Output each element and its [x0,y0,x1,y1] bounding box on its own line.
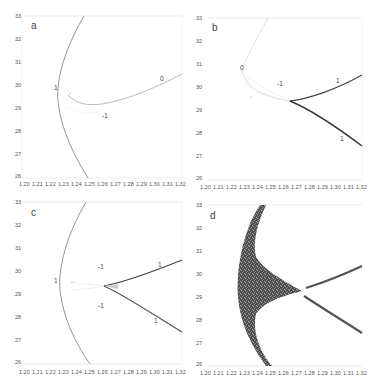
y-tick: 33 [15,199,21,205]
panel-b: 33 32 31 30 29 28 27 26 1.20 1.21 1.22 1… [190,0,380,192]
svg-text:1.21: 1.21 [32,369,43,375]
svg-text:1.22: 1.22 [226,370,237,376]
svg-text:1.30: 1.30 [330,370,341,376]
lower-band [304,296,362,333]
plot-area: 33 32 31 30 29 28 27 26 1.20 1.21 1.22 1… [0,192,190,384]
plot-area: 33 32 31 30 29 28 27 26 1.20 1.21 1.22 1… [190,192,380,384]
svg-text:1.29: 1.29 [317,370,328,376]
y-tick: 31 [196,61,202,67]
panel-label: a [31,20,37,31]
lower-branch-curve [104,286,182,332]
svg-text:1.26: 1.26 [97,181,108,187]
svg-text:1.25: 1.25 [265,370,276,376]
svg-text:1.23: 1.23 [58,369,69,375]
panel-label: c [31,207,36,218]
y-tick: 30 [196,84,202,90]
svg-text:1.30: 1.30 [149,369,160,375]
svg-text:1.27: 1.27 [291,184,302,190]
svg-text:1.30: 1.30 [149,181,160,187]
svg-text:1.22: 1.22 [45,181,56,187]
annotation: 1 [54,277,58,284]
annotation: 1 [154,317,158,324]
annotation: 1 [54,84,58,91]
svg-text:1.24: 1.24 [252,370,263,376]
annotation: -1 [98,263,104,270]
y-tick: 27 [196,153,202,159]
svg-text:1.26: 1.26 [97,369,108,375]
svg-text:1.30: 1.30 [330,184,341,190]
y-tick: 27 [15,151,21,157]
svg-text:1.32: 1.32 [175,369,186,375]
faint-dotted-curve [60,104,100,113]
svg-text:1.23: 1.23 [239,370,250,376]
svg-text:1.27: 1.27 [110,181,121,187]
inner-branch-curve [68,74,182,105]
svg-text:1.29: 1.29 [136,369,147,375]
svg-text:1.29: 1.29 [136,181,147,187]
y-tick: 27 [196,340,202,346]
annotation: 1 [340,135,344,142]
y-tick: 26 [196,361,202,367]
annotation: . [69,88,71,95]
svg-text:1.28: 1.28 [304,184,315,190]
svg-text:1.24: 1.24 [71,181,82,187]
svg-text:1.31: 1.31 [343,370,354,376]
y-tick: 30 [15,268,21,274]
panel-label: b [212,22,218,33]
dense-region [238,205,302,366]
y-tick: 32 [196,38,202,44]
svg-text:1.21: 1.21 [213,370,224,376]
svg-text:1.28: 1.28 [304,370,315,376]
svg-text:1.25: 1.25 [84,369,95,375]
svg-text:1.20: 1.20 [200,184,211,190]
svg-text:1.31: 1.31 [162,369,173,375]
annotation: 1 [336,77,340,84]
x-axis-ticks: 1.20 1.21 1.22 1.23 1.24 1.25 1.26 1.27 … [200,370,367,376]
y-tick: 27 [15,337,21,343]
y-tick: 26 [196,175,202,181]
point-marker [250,96,251,97]
svg-text:1.20: 1.20 [19,181,30,187]
lower-branch-curve [290,101,362,146]
outer-branch-curve [60,202,90,364]
svg-text:1.28: 1.28 [123,181,134,187]
y-tick: 28 [15,314,21,320]
svg-text:1.27: 1.27 [291,370,302,376]
svg-text:1.32: 1.32 [356,370,367,376]
y-tick: 26 [15,173,21,179]
y-tick: 29 [196,294,202,300]
svg-text:1.24: 1.24 [252,184,263,190]
y-tick: 31 [196,248,202,254]
svg-text:1.31: 1.31 [343,184,354,190]
svg-text:1.22: 1.22 [226,184,237,190]
y-tick: 30 [15,82,21,88]
annotation: . [71,277,73,284]
y-tick: 32 [196,225,202,231]
panel-c: 33 32 31 30 29 28 27 26 1.20 1.21 1.22 1… [0,192,190,384]
y-tick: 33 [15,13,21,19]
y-tick: 29 [196,107,202,113]
y-tick: 31 [15,59,21,65]
x-axis-ticks: 1.20 1.21 1.22 1.23 1.24 1.25 1.26 1.27 … [19,181,186,187]
svg-text:1.20: 1.20 [19,369,30,375]
plot-area: 33 32 31 30 29 28 27 26 1.20 1.21 1.22 1… [190,0,380,192]
upper-branch-curve [290,75,362,101]
svg-text:1.23: 1.23 [239,184,250,190]
svg-text:1.26: 1.26 [278,184,289,190]
svg-text:1.21: 1.21 [213,184,224,190]
y-tick: 32 [15,36,21,42]
panel-label: d [210,210,216,221]
y-tick: 30 [196,271,202,277]
annotation: 0 [240,64,244,71]
y-tick: 33 [196,15,202,21]
annotation: -1 [277,80,283,87]
panel-d: 33 32 31 30 29 28 27 26 1.20 1.21 1.22 1… [190,192,380,384]
svg-text:1.32: 1.32 [175,181,186,187]
svg-text:1.27: 1.27 [110,369,121,375]
svg-text:1.22: 1.22 [45,369,56,375]
svg-text:1.24: 1.24 [71,369,82,375]
svg-text:1.23: 1.23 [58,181,69,187]
y-tick: 28 [196,130,202,136]
svg-text:1.21: 1.21 [32,181,43,187]
y-tick: 32 [15,222,21,228]
